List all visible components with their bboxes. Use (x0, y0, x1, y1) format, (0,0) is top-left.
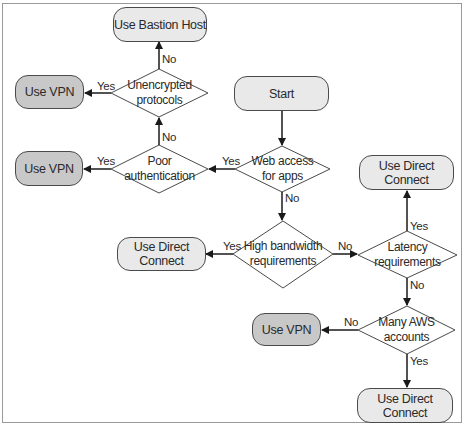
edge-label-many-aws-no: No (344, 316, 358, 328)
edge-label-poor-auth-yes: Yes (97, 155, 115, 167)
decision-many-aws-accounts: Many AWS accounts (358, 315, 455, 345)
edge-label-unencrypted-no: No (162, 53, 176, 65)
flowchart-edges (0, 0, 468, 431)
node-use-bastion-host: Use Bastion Host (113, 7, 207, 42)
edge-label-web-access-yes: Yes (222, 155, 240, 167)
node-use-direct-connect-left: Use Direct Connect (117, 237, 206, 271)
edge-label-many-aws-yes: Yes (410, 355, 428, 367)
node-use-direct-connect-bottom: Use Direct Connect (357, 388, 453, 423)
edge-label-unencrypted-yes: Yes (97, 80, 115, 92)
decision-poor-authentication: Poor authentication (111, 154, 208, 184)
node-start: Start (234, 76, 329, 111)
decision-latency-requirements: Latency requirements (358, 240, 457, 270)
node-use-vpn-middle: Use VPN (15, 151, 83, 186)
decision-web-access-for-apps: Web access for apps (235, 154, 330, 184)
decision-unencrypted-protocols: Unencrypted protocols (111, 78, 208, 108)
edge-label-web-access-no: No (285, 192, 299, 204)
node-use-vpn-bottom: Use VPN (252, 313, 321, 346)
node-use-direct-connect-top-right: Use Direct Connect (359, 155, 454, 190)
edge-label-poor-auth-no: No (162, 131, 176, 143)
edge-label-high-bw-yes: Yes (223, 240, 241, 252)
edge-label-high-bw-no: No (338, 240, 352, 252)
edge-label-latency-no: No (410, 279, 424, 291)
edge-label-latency-yes: Yes (410, 220, 428, 232)
decision-high-bandwidth: High bandwidth requirements (233, 239, 333, 269)
node-use-vpn-top: Use VPN (15, 75, 84, 109)
